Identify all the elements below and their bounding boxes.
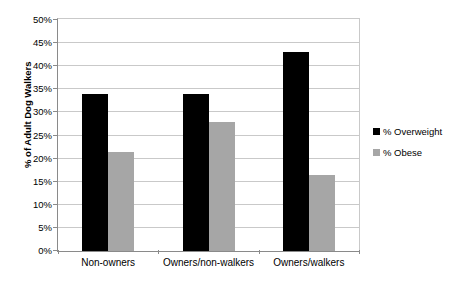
- legend-label: % Obese: [383, 148, 422, 158]
- y-axis-tick-label: 35%: [4, 84, 52, 94]
- gridline: [58, 88, 359, 89]
- x-axis-tick-label: Owners/walkers: [239, 258, 379, 268]
- y-axis-tick-label: 45%: [4, 38, 52, 48]
- y-axis-tick-label: 30%: [4, 107, 52, 117]
- legend-item: % Overweight: [373, 121, 442, 142]
- y-axis-tick-label: 50%: [4, 15, 52, 25]
- bar-overweight: [283, 52, 309, 251]
- bar-obese: [209, 122, 235, 251]
- y-axis-tick-label: 0%: [4, 246, 52, 256]
- x-axis-tick-mark: [158, 250, 159, 254]
- plot-area: [57, 18, 360, 252]
- x-axis-tick-mark: [359, 250, 360, 254]
- bar-chart: % of Adult Dog Walkers 50%45%40%35%30%25…: [0, 0, 457, 287]
- bar-obese: [108, 152, 134, 251]
- legend-swatch-overweight: [373, 128, 380, 135]
- y-axis-tick-label: 25%: [4, 131, 52, 141]
- y-axis-tick-label: 40%: [4, 61, 52, 71]
- y-axis-tick-label: 10%: [4, 200, 52, 210]
- bar-obese: [309, 175, 335, 251]
- x-axis-tick-mark: [259, 250, 260, 254]
- gridline: [58, 65, 359, 66]
- y-axis-tick-label: 20%: [4, 154, 52, 164]
- y-axis-tick-label: 5%: [4, 223, 52, 233]
- gridline: [58, 42, 359, 43]
- legend-label: % Overweight: [383, 127, 442, 137]
- bar-overweight: [183, 94, 209, 251]
- x-axis-tick-mark: [58, 250, 59, 254]
- legend: % Overweight% Obese: [373, 121, 442, 163]
- y-axis-tick-label: 15%: [4, 177, 52, 187]
- bar-overweight: [82, 94, 108, 251]
- legend-swatch-obese: [373, 149, 380, 156]
- legend-item: % Obese: [373, 142, 442, 163]
